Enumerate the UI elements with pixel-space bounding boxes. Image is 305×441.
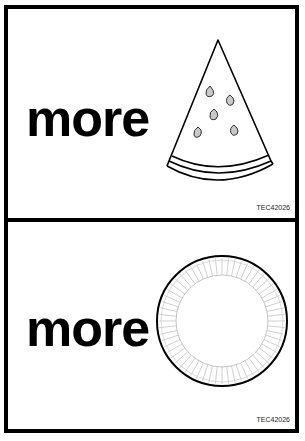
product-code: TEC42026: [257, 416, 290, 423]
card-word: more: [26, 92, 149, 144]
flash-card-plate: more TEC42026: [8, 222, 295, 429]
flash-card-watermelon: more TEC42026: [8, 9, 295, 218]
paper-plate-icon: [154, 253, 290, 389]
product-code: TEC42026: [257, 204, 290, 211]
card-word: more: [26, 302, 149, 354]
flash-card-sheet: more TEC42026 more: [4, 5, 299, 433]
watermelon-slice-icon: [158, 35, 278, 195]
